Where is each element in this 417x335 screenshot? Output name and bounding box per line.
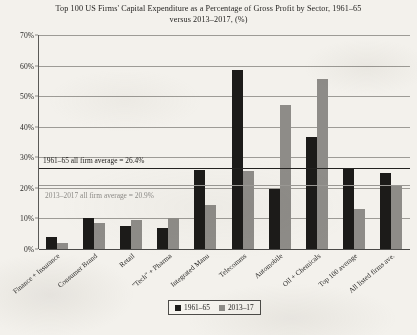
- bar-1[interactable]: [205, 205, 216, 249]
- bar-group: [261, 35, 298, 249]
- bar-group: [150, 35, 187, 249]
- x-axis-category-label: Retail: [118, 252, 136, 269]
- bar-0[interactable]: [120, 226, 131, 249]
- y-axis-tick-label: 0%: [24, 245, 34, 254]
- legend-label: 2013–17: [228, 303, 254, 312]
- bar-0[interactable]: [194, 170, 205, 249]
- bar-group: [75, 35, 112, 249]
- x-label-cell: Consumer Brand: [75, 250, 112, 312]
- bar-1[interactable]: [391, 185, 402, 249]
- reference-line-average-2013-2017: [39, 185, 410, 186]
- legend-label: 1961–65: [184, 303, 210, 312]
- bar-group: [224, 35, 261, 249]
- y-axis-tick-label: 50%: [20, 92, 34, 101]
- bar-0[interactable]: [232, 70, 243, 249]
- bar-0[interactable]: [46, 237, 57, 249]
- bar-group: [112, 35, 149, 249]
- bar-group: [298, 35, 335, 249]
- bar-group: [38, 35, 75, 249]
- reference-line-label: 2013–2017 all firm average = 20.9%: [45, 191, 154, 200]
- bar-group: [373, 35, 410, 249]
- bar-1[interactable]: [131, 220, 142, 249]
- legend-item[interactable]: 1961–65: [175, 303, 210, 312]
- bar-group: [336, 35, 373, 249]
- bar-1[interactable]: [280, 105, 291, 249]
- bar-1[interactable]: [243, 171, 254, 249]
- bar-1[interactable]: [57, 243, 68, 249]
- y-axis-tick-label: 30%: [20, 153, 34, 162]
- reference-line-average-1961-65: [39, 168, 410, 169]
- legend-swatch-icon: [219, 305, 225, 311]
- y-axis-tick-label: 60%: [20, 61, 34, 70]
- x-axis-category-label: Finance + Insurance: [12, 252, 62, 296]
- x-label-cell: All listed firms ave.: [373, 250, 410, 312]
- chart-plot-area: 0%10%20%30%40%50%60%70%1961–65 all firm …: [38, 35, 410, 249]
- bar-0[interactable]: [306, 137, 317, 249]
- y-axis-tick-label: 10%: [20, 214, 34, 223]
- bar-1[interactable]: [168, 218, 179, 249]
- bar-0[interactable]: [343, 168, 354, 249]
- bar-0[interactable]: [157, 228, 168, 249]
- y-axis-tick-label: 20%: [20, 183, 34, 192]
- bar-group: [187, 35, 224, 249]
- bar-1[interactable]: [94, 223, 105, 249]
- bar-0[interactable]: [83, 218, 94, 249]
- bar-0[interactable]: [269, 189, 280, 249]
- legend-item[interactable]: 2013–17: [219, 303, 254, 312]
- bar-groups: [38, 35, 410, 249]
- y-axis-tick-label: 40%: [20, 122, 34, 131]
- legend-swatch-icon: [175, 305, 181, 311]
- chart-legend: 1961–652013–17: [168, 300, 261, 315]
- y-axis-tick-label: 70%: [20, 31, 34, 40]
- bar-1[interactable]: [317, 79, 328, 249]
- chart-title: Top 100 US Firms' Capital Expenditure as…: [0, 3, 417, 25]
- reference-line-label: 1961–65 all firm average = 26.4%: [43, 156, 144, 165]
- bar-1[interactable]: [354, 209, 365, 249]
